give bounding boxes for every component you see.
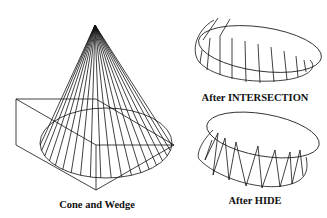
cone-generator-line	[95, 25, 163, 161]
hide-top-ellipse	[203, 104, 323, 165]
intersection-facet-line	[296, 56, 298, 77]
hide-facet-line	[290, 152, 292, 184]
cone-generator-line	[95, 25, 132, 175]
intersection-facet-line	[284, 51, 287, 80]
hide-facet-line	[300, 150, 303, 176]
hide-facet-lines	[205, 133, 303, 188]
cone-generator-line	[95, 25, 141, 173]
cone-base-ellipse	[40, 108, 172, 178]
hide-facet-line	[258, 146, 262, 188]
after-hide-drawing	[198, 104, 323, 188]
intersection-facet-line	[200, 50, 202, 63]
intersection-facet-line	[245, 41, 246, 82]
intersection-facet-line	[271, 47, 274, 82]
cone-and-wedge-drawing	[16, 25, 174, 190]
diagram-canvas	[0, 0, 327, 218]
hide-facet-line	[236, 142, 246, 186]
cone-generator-line	[95, 25, 167, 156]
cone-generator-lines	[40, 25, 172, 178]
intersection-facet-line	[203, 18, 218, 40]
cone-generator-line	[42, 25, 95, 151]
intersection-facet-line	[220, 19, 230, 36]
cone-generator-line	[95, 25, 157, 166]
caption-cone-and-wedge: Cone and Wedge	[59, 199, 135, 210]
hide-facet-line	[262, 150, 275, 188]
hide-facet-line	[275, 150, 280, 187]
caption-after-intersection: After INTERSECTION	[202, 92, 309, 103]
hide-facet-line	[280, 152, 290, 187]
hide-facet-line	[225, 138, 229, 180]
hide-facet-line	[292, 150, 300, 184]
intersection-top-ellipse	[196, 19, 325, 80]
intersection-facet-line	[258, 44, 260, 83]
hide-facet-line	[246, 146, 258, 186]
cone-generator-line	[40, 25, 95, 145]
caption-after-hide: After HIDE	[228, 195, 281, 206]
cone-generator-line	[55, 25, 95, 166]
after-intersection-drawing	[195, 18, 324, 83]
